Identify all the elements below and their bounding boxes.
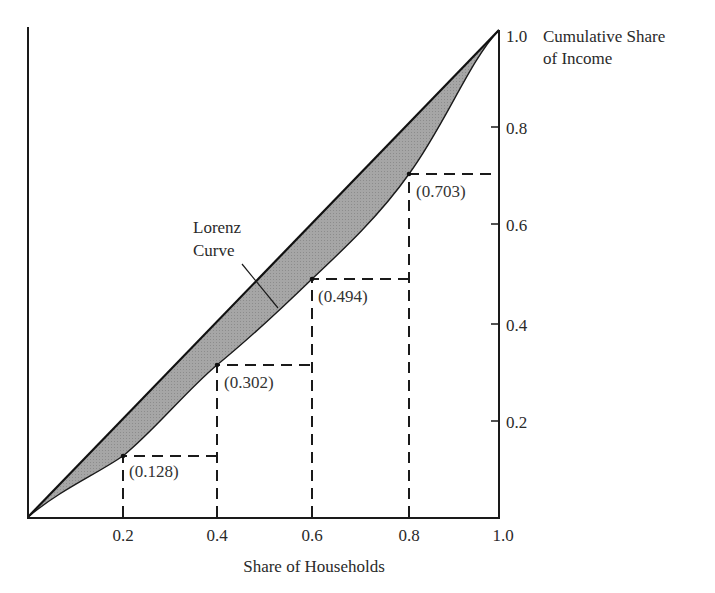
- x-axis-title: Share of Households: [243, 557, 385, 576]
- y-tick-labels: 0.2 0.4 0.6 0.8 1.0: [506, 27, 528, 432]
- point-label-0.4: (0.302): [224, 373, 274, 392]
- svg-text:1.0: 1.0: [492, 526, 513, 545]
- lorenz-curve-chart: (0.128) (0.302) (0.494) (0.703) Lorenz C…: [0, 0, 715, 593]
- svg-text:0.8: 0.8: [506, 119, 527, 138]
- equality-line: [28, 30, 499, 517]
- svg-text:0.6: 0.6: [301, 526, 322, 545]
- point-label-0.8: (0.703): [416, 182, 466, 201]
- y-axis-title-line1: Cumulative Share: [543, 27, 665, 46]
- svg-text:0.2: 0.2: [506, 413, 527, 432]
- svg-text:0.8: 0.8: [398, 526, 419, 545]
- svg-text:0.4: 0.4: [206, 526, 228, 545]
- x-tick-labels: 0.2 0.4 0.6 0.8 1.0: [112, 526, 513, 545]
- y-axis-ticks: [491, 127, 499, 421]
- lorenz-annotation-line2: Curve: [193, 241, 235, 260]
- lorenz-annotation-line1: Lorenz: [193, 218, 242, 237]
- svg-text:0.4: 0.4: [506, 316, 528, 335]
- point-label-0.2: (0.128): [129, 462, 179, 481]
- svg-text:1.0: 1.0: [506, 27, 527, 46]
- y-axis-title-line2: of Income: [543, 49, 612, 68]
- point-label-0.6: (0.494): [318, 287, 368, 306]
- svg-text:0.2: 0.2: [112, 526, 133, 545]
- svg-text:0.6: 0.6: [506, 216, 527, 235]
